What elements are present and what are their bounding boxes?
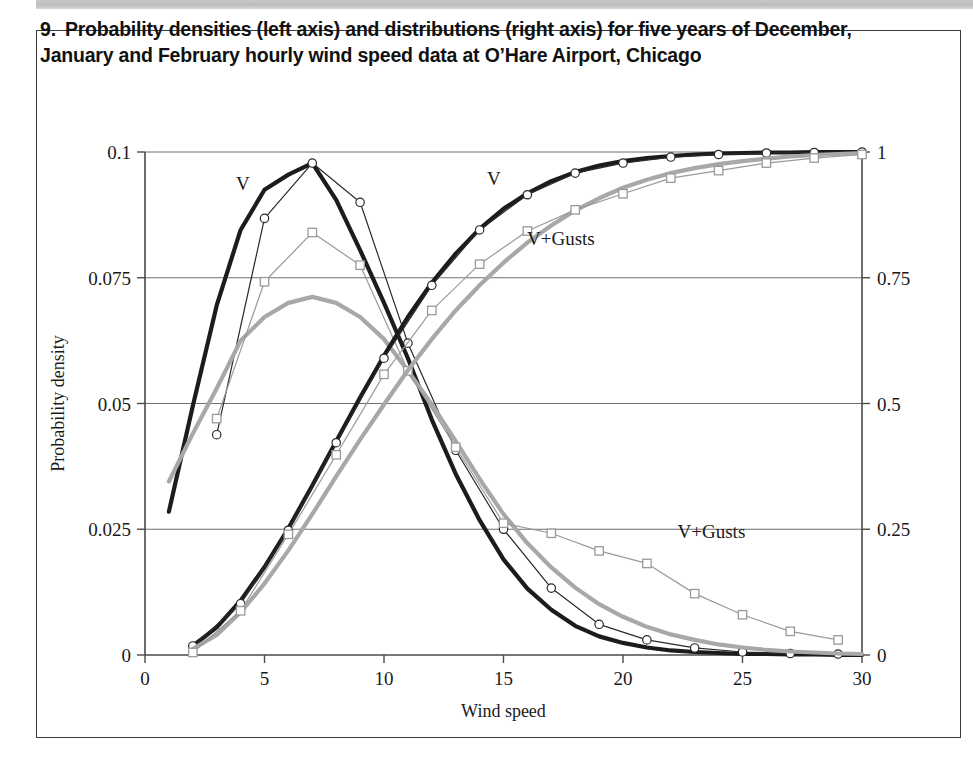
- chart-svg: 05101520253000.0250.050.0750.100.250.50.…: [0, 0, 973, 770]
- series-marker-circle: [332, 439, 340, 447]
- ytick-label-right: 0.5: [877, 394, 901, 415]
- series-marker-circle: [619, 159, 627, 167]
- series-marker-circle: [475, 226, 483, 234]
- series-marker-square: [858, 150, 866, 158]
- series-marker-circle: [643, 636, 651, 644]
- chart-area: 05101520253000.0250.050.0750.100.250.50.…: [0, 0, 973, 770]
- series-marker-square: [189, 648, 197, 656]
- series-marker-square: [452, 443, 460, 451]
- series-annotation: V: [487, 168, 501, 189]
- series-marker-square: [762, 159, 770, 167]
- series-marker-square: [356, 261, 364, 269]
- series-marker-square: [475, 260, 483, 268]
- series-marker-circle: [260, 214, 268, 222]
- series-marker-square: [284, 530, 292, 538]
- series-marker-square: [786, 627, 794, 635]
- figure-page: 9.Probability densities (left axis) and …: [0, 0, 973, 770]
- xtick-label: 15: [494, 668, 513, 689]
- xtick-label: 30: [853, 668, 872, 689]
- series-marker-circle: [714, 150, 722, 158]
- ytick-label-left: 0.1: [107, 142, 131, 163]
- ytick-label-left: 0.025: [88, 519, 131, 540]
- xtick-label: 25: [733, 668, 752, 689]
- series-marker-square: [834, 636, 842, 644]
- ytick-label-left: 0.075: [88, 268, 131, 289]
- xtick-label: 20: [614, 668, 633, 689]
- series-marker-circle: [213, 430, 221, 438]
- series-marker-square: [380, 370, 388, 378]
- series-line: [217, 232, 838, 639]
- series-line: [193, 152, 862, 646]
- xtick-label: 0: [140, 668, 150, 689]
- series-marker-square: [308, 228, 316, 236]
- series-marker-square: [595, 547, 603, 555]
- series-marker-circle: [667, 153, 675, 161]
- xtick-label: 5: [260, 668, 270, 689]
- series-marker-square: [499, 519, 507, 527]
- series-line: [169, 163, 862, 655]
- series-marker-square: [260, 278, 268, 286]
- ytick-label-right: 1: [877, 142, 887, 163]
- series-marker-square: [691, 589, 699, 597]
- series-marker-square: [332, 451, 340, 459]
- series-marker-square: [714, 166, 722, 174]
- series-marker-square: [428, 306, 436, 314]
- series-marker-circle: [691, 644, 699, 652]
- series-marker-circle: [523, 191, 531, 199]
- ytick-label-left: 0.05: [98, 394, 131, 415]
- series-marker-circle: [762, 149, 770, 157]
- series-marker-square: [571, 206, 579, 214]
- series-line: [169, 297, 862, 654]
- series-marker-circle: [380, 354, 388, 362]
- series-marker-circle: [356, 198, 364, 206]
- ytick-label-left: 0: [122, 645, 132, 666]
- yaxis-title: Probability density: [48, 335, 68, 472]
- xtick-label: 10: [375, 668, 394, 689]
- series-marker-square: [619, 190, 627, 198]
- series-marker-square: [643, 559, 651, 567]
- series-marker-square: [810, 154, 818, 162]
- series-line: [193, 152, 862, 646]
- series-marker-square: [236, 607, 244, 615]
- series-marker-circle: [308, 159, 316, 167]
- series-annotation: V: [236, 173, 250, 194]
- series-marker-square: [547, 529, 555, 537]
- ytick-label-right: 0.25: [877, 519, 910, 540]
- series-marker-square: [667, 174, 675, 182]
- series-marker-circle: [428, 281, 436, 289]
- series-marker-square: [213, 414, 221, 422]
- ytick-label-right: 0: [877, 645, 887, 666]
- series-annotation: V+Gusts: [527, 228, 595, 249]
- series-marker-circle: [571, 169, 579, 177]
- xaxis-title: Wind speed: [461, 701, 546, 721]
- series-marker-circle: [595, 620, 603, 628]
- series-annotation: V+Gusts: [678, 521, 746, 542]
- series-marker-square: [738, 611, 746, 619]
- series-marker-circle: [547, 584, 555, 592]
- ytick-label-right: 0.75: [877, 268, 910, 289]
